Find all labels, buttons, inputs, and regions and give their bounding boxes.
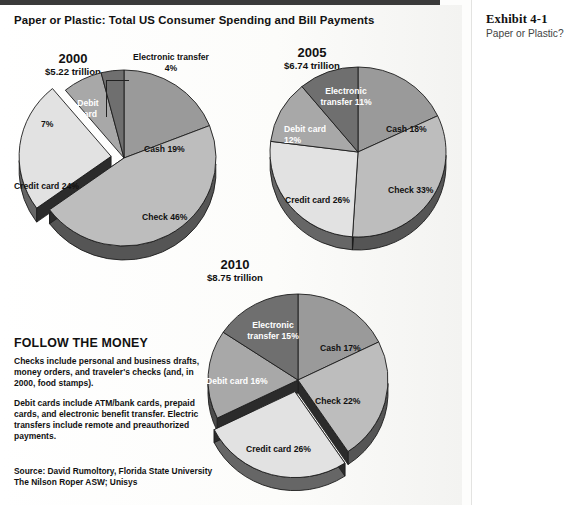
chart-2010-total: $8.75 trillion [180,272,290,284]
chart-2010-year: 2010 [180,258,290,272]
pie-chart-2005: 2005 $6.74 trillion Electronic transfer … [250,40,465,280]
chart-2000-label-debit-card: Debit card [70,98,106,119]
exhibit-subtitle: Paper or Plastic? [486,28,564,39]
exhibit-page: Paper or Plastic: Total US Consumer Spen… [0,0,580,505]
pie-2010-graphic [186,284,414,496]
right-margin-pane [472,0,580,505]
chart-2000-label-debit-percent: 7% [41,119,53,130]
pie-chart-2000: 2000 $5.22 trillion Electronic transfer … [0,40,235,280]
chart-2005-label-check: Check 33% [388,185,433,196]
chart-2000-label-cash: Cash 19% [144,144,185,155]
chart-2005-label-credit-card: Credit card 26% [285,195,350,206]
chart-2005-year: 2005 [260,46,364,60]
chart-2010-label-electronic-transfer: Electronic transfer 15% [242,320,304,341]
follow-the-money-para-2: Debit cards include ATM/bank cards, prep… [14,398,210,443]
chart-2000-label-credit-card: Credit card 24% [14,181,79,192]
chart-2010-label-check: Check 22% [315,396,360,407]
chart-2000-label-electronic-transfer: Electronic transfer 4% [128,52,214,73]
chart-2010-label-cash: Cash 17% [320,343,361,354]
pie-chart-2010: 2010 $8.75 trillion Electronic transfer … [180,258,425,498]
follow-the-money-para-1: Checks include personal and business dra… [14,356,210,390]
page-title: Paper or Plastic: Total US Consumer Spen… [14,14,434,26]
pie-slice-credit-card [270,141,358,236]
chart-2010-label-debit-card: Debit card 16% [206,376,268,387]
source-line-2: The Nilson Roper ASW; Unisys [14,477,274,488]
chart-2005-label-debit-card: Debit card 12% [284,124,328,145]
source-line-1: Source: David Rumoltory, Florida State U… [14,466,274,477]
electronic-transfer-leader-line [106,80,129,117]
pie-2010-svg [186,284,414,496]
source-citation: Source: David Rumoltory, Florida State U… [14,466,274,488]
follow-the-money-heading: FOLLOW THE MONEY [14,336,210,350]
chart-2000-label-check: Check 46% [142,212,187,223]
chart-2005-label-electronic-transfer: Electronic transfer 11% [318,86,374,107]
chart-2010-label-credit-card: Credit card 26% [246,444,311,455]
chart-2005-label-cash: Cash 18% [386,124,427,135]
follow-the-money-block: FOLLOW THE MONEY Checks include personal… [14,336,210,450]
exhibit-number: Exhibit 4-1 [486,12,548,27]
